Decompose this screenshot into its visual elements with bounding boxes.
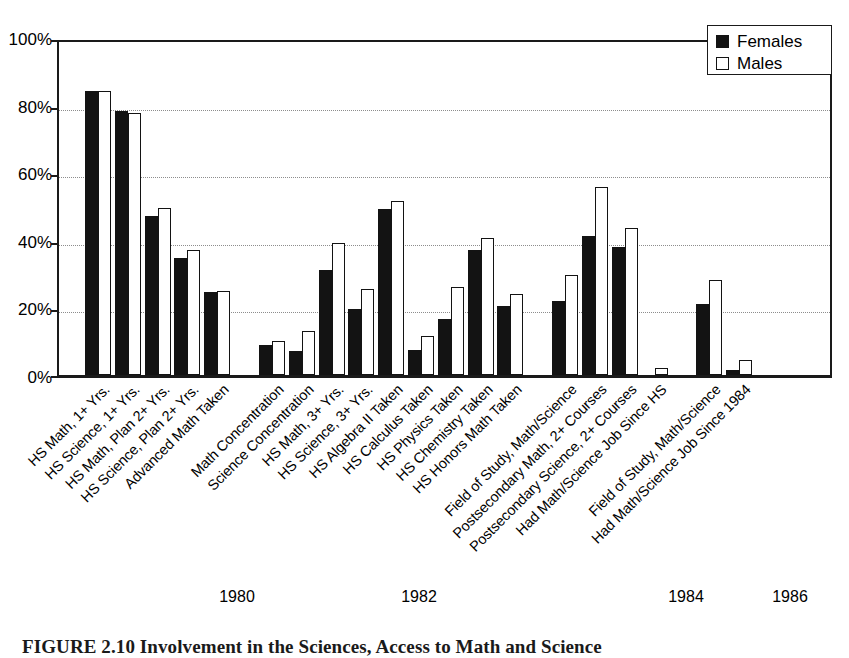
x-axis-category-labels: HS Math, 1+ Yrs.HS Science, 1+ Yrs.HS Ma… xyxy=(0,382,849,582)
figure-caption: FIGURE 2.10 Involvement in the Sciences,… xyxy=(0,636,849,658)
legend-swatch-males-icon xyxy=(716,57,729,70)
year-label-1982: 1982 xyxy=(401,588,437,606)
legend-entry-males: Males xyxy=(716,52,831,74)
year-label-1984: 1984 xyxy=(668,588,704,606)
legend-swatch-females-icon xyxy=(716,35,729,48)
legend-entry-females: Females xyxy=(716,30,831,52)
bar-males-1 xyxy=(128,113,141,375)
y-tick-label-80: 80% xyxy=(18,98,52,118)
year-label-1986: 1986 xyxy=(772,588,808,606)
y-tick-label-20: 20% xyxy=(18,300,52,320)
bar-females-0 xyxy=(85,91,98,375)
figure-container: 100% 80% 60% 40% 20% 0% Females Males HS… xyxy=(0,0,849,658)
year-labels: 1980198219841986 xyxy=(0,588,849,612)
y-tick-label-40: 40% xyxy=(18,233,52,253)
legend-label-males: Males xyxy=(737,55,782,72)
bar-males-0 xyxy=(98,91,111,375)
figure-caption-text: FIGURE 2.10 Involvement in the Sciences,… xyxy=(0,636,602,657)
y-axis: 100% 80% 60% 40% 20% 0% xyxy=(0,40,52,378)
legend: Females Males xyxy=(707,25,832,75)
y-tick-label-60: 60% xyxy=(18,165,52,185)
y-tick-label-100: 100% xyxy=(9,30,52,50)
bar-females-1 xyxy=(115,111,128,375)
year-label-1980: 1980 xyxy=(219,588,255,606)
legend-label-females: Females xyxy=(737,33,802,50)
